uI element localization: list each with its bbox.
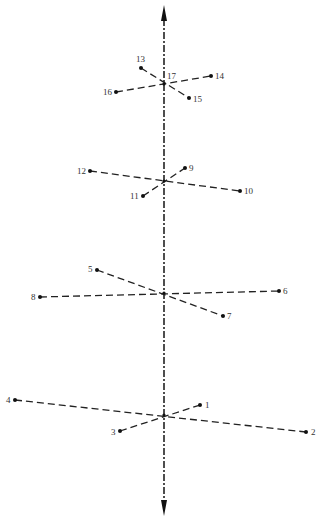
point-label-10: 10: [244, 186, 254, 196]
point-groups: 1234567891011121713141516: [6, 54, 316, 437]
point-1: [198, 403, 202, 407]
point-label-3: 3: [111, 427, 116, 437]
center-point: [162, 413, 165, 416]
group-1: 1234: [6, 395, 316, 437]
segment-5-7: [97, 270, 223, 316]
point-label-16: 16: [103, 87, 113, 97]
point-label-9: 9: [189, 163, 194, 173]
point-10: [238, 189, 242, 193]
point-13: [139, 66, 143, 70]
point-label-2: 2: [311, 427, 316, 437]
segment-4-2: [15, 400, 306, 432]
center-point: [162, 179, 165, 182]
center-label: 17: [167, 71, 177, 81]
point-4: [13, 398, 17, 402]
segment-3-1: [120, 405, 200, 431]
point-9: [183, 166, 187, 170]
point-16: [114, 90, 118, 94]
point-6: [277, 289, 281, 293]
point-label-13: 13: [136, 54, 146, 64]
point-label-7: 7: [227, 311, 232, 321]
group-2: 5678: [31, 264, 288, 321]
point-label-6: 6: [283, 286, 288, 296]
point-label-8: 8: [31, 292, 36, 302]
point-2: [304, 430, 308, 434]
center-point: [162, 291, 165, 294]
point-label-11: 11: [130, 191, 139, 201]
point-3: [118, 429, 122, 433]
point-5: [95, 268, 99, 272]
point-label-5: 5: [88, 264, 93, 274]
point-8: [38, 295, 42, 299]
arrow-down-icon: [161, 500, 167, 516]
point-label-12: 12: [77, 166, 86, 176]
point-12: [88, 169, 92, 173]
molecular-axis-diagram: 1234567891011121713141516: [0, 0, 324, 526]
center-point: [162, 82, 165, 85]
segment-8-6: [40, 291, 279, 297]
point-label-4: 4: [6, 395, 11, 405]
point-label-15: 15: [193, 94, 203, 104]
point-15: [187, 96, 191, 100]
point-14: [209, 74, 213, 78]
point-label-14: 14: [215, 71, 225, 81]
arrow-up-icon: [161, 5, 167, 21]
point-7: [221, 314, 225, 318]
group-3: 9101112: [77, 163, 254, 201]
point-11: [141, 194, 145, 198]
point-label-1: 1: [205, 400, 210, 410]
